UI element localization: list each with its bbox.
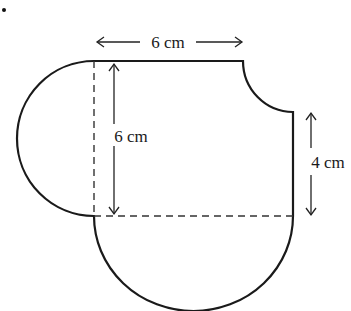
composite-shape-diagram: 6 cm 6 cm 4 cm xyxy=(0,0,351,311)
left-height-label: 6 cm xyxy=(114,127,148,146)
left-height-dimension: 6 cm xyxy=(109,64,148,214)
bullet-dot xyxy=(2,8,6,12)
right-height-dimension: 4 cm xyxy=(306,113,345,215)
top-width-label: 6 cm xyxy=(151,33,185,52)
right-height-label: 4 cm xyxy=(311,153,345,172)
shape-outline xyxy=(17,61,293,311)
top-width-dimension: 6 cm xyxy=(97,33,242,52)
